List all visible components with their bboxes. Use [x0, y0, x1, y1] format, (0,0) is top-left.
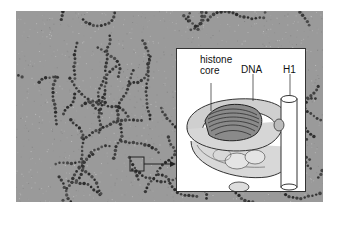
- nucleosome-diagram-inset: histone core DNA H1: [176, 48, 306, 192]
- label-h1: H1: [283, 64, 296, 75]
- label-core: core: [200, 65, 219, 76]
- label-histone: histone: [200, 54, 232, 65]
- label-dna: DNA: [241, 64, 262, 75]
- zoom-marker-box: [130, 157, 144, 171]
